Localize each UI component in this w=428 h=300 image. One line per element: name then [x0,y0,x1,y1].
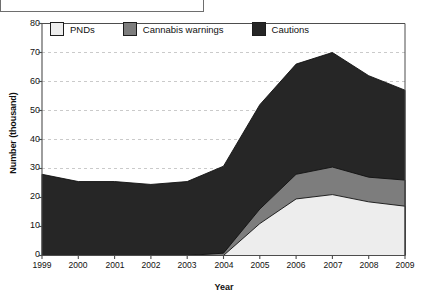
legend-item-cautions: Cautions [252,22,310,36]
legend-label-cautions: Cautions [272,24,310,35]
legend-item-pnds: PNDs [50,22,95,36]
legend-swatch-pnds [50,22,64,36]
chart-figure: Number (thousand) Year 80 70 60 50 40 30… [0,0,428,300]
chart-legend: PNDs Cannabis warnings Cautions [50,22,309,36]
legend-label-pnds: PNDs [70,24,95,35]
legend-swatch-cautions [252,22,266,36]
legend-swatch-cannabis-warnings [123,22,137,36]
legend-label-cannabis-warnings: Cannabis warnings [143,24,224,35]
chart-plot-area [0,0,428,300]
stacked-areas [42,53,405,256]
legend-item-cannabis-warnings: Cannabis warnings [123,22,224,36]
